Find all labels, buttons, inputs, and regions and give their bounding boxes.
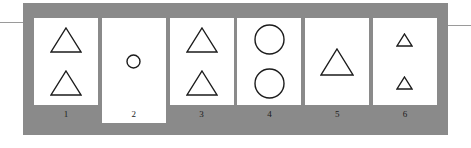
card-number-label: 6 <box>373 107 437 125</box>
card-number-label: 3 <box>170 107 234 125</box>
triangle-shape <box>50 27 82 53</box>
figure-stage: 123456 <box>0 0 471 148</box>
triangle-shape <box>186 70 218 96</box>
card-number-label: 5 <box>305 107 369 125</box>
card-1[interactable] <box>34 18 98 105</box>
card-3[interactable] <box>170 18 234 105</box>
card-number-label: 1 <box>34 107 98 125</box>
triangle-shape <box>186 27 218 53</box>
triangle-shape <box>320 48 354 76</box>
circle-shape <box>126 54 141 69</box>
card-number-label: 4 <box>237 107 301 125</box>
circle-shape <box>254 24 285 55</box>
card-number-label: 2 <box>102 107 166 125</box>
triangle-shape <box>396 76 413 90</box>
right-edge-rule <box>445 25 471 26</box>
card-4[interactable] <box>237 18 301 105</box>
triangle-shape <box>396 33 413 47</box>
card-number-row: 123456 <box>34 107 437 125</box>
triangle-shape <box>50 70 82 96</box>
gray-panel: 123456 <box>23 3 448 135</box>
card-6[interactable] <box>373 18 437 105</box>
card-5[interactable] <box>305 18 369 105</box>
circle-shape <box>254 68 285 99</box>
card-row <box>34 18 437 105</box>
